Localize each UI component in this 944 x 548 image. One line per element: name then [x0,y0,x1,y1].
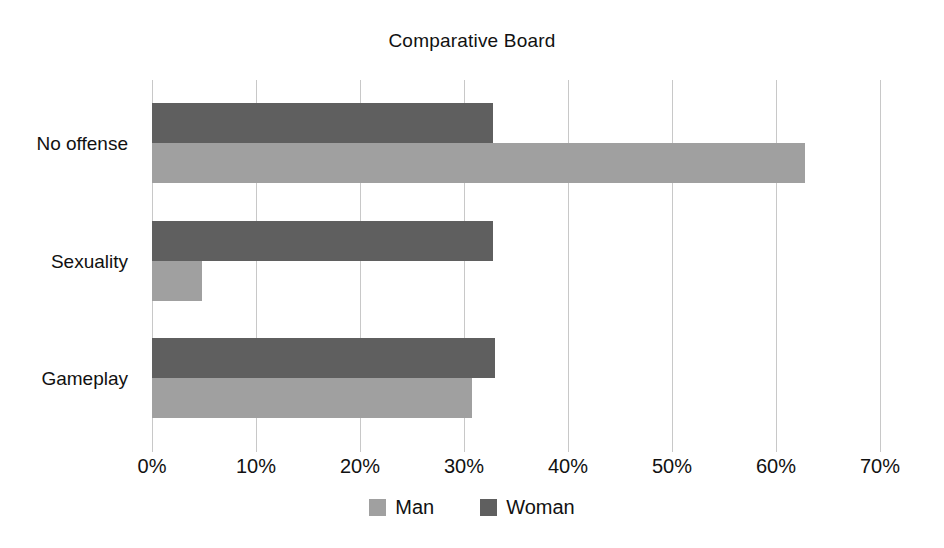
gridline-60 [776,80,777,452]
legend-label-woman: Woman [506,496,575,519]
x-tick-label-10: 10% [216,455,296,478]
legend-swatch-man-icon [369,499,386,516]
x-tick-label-70: 70% [840,455,920,478]
y-axis-label-no-offense: No offense [0,133,128,155]
gridline-50 [672,80,673,452]
x-tick-label-60: 60% [736,455,816,478]
x-tick-label-40: 40% [528,455,608,478]
y-axis-label-sexuality: Sexuality [0,251,128,273]
bar-woman-no-offense[interactable] [152,103,493,143]
x-tick-label-0: 0% [112,455,192,478]
comparative-board-chart: Comparative Board No offense Sexuality G… [0,0,944,548]
gridline-70 [880,80,881,452]
bar-man-no-offense[interactable] [152,143,805,183]
gridline-40 [568,80,569,452]
y-axis-category-labels: No offense Sexuality Gameplay [0,80,140,433]
chart-legend: Man Woman [0,496,944,519]
x-tick-label-50: 50% [632,455,712,478]
x-tick-label-30: 30% [424,455,504,478]
bar-man-sexuality[interactable] [152,261,202,301]
bar-woman-sexuality[interactable] [152,221,493,261]
bar-man-gameplay[interactable] [152,378,472,418]
legend-label-man: Man [395,496,434,519]
bar-woman-gameplay[interactable] [152,338,495,378]
legend-item-woman[interactable]: Woman [480,496,575,519]
chart-title: Comparative Board [0,30,944,52]
y-axis-label-gameplay: Gameplay [0,368,128,390]
x-axis-tick-labels: 0%10%20%30%40%50%60%70% [0,455,944,485]
legend-item-man[interactable]: Man [369,496,434,519]
legend-swatch-woman-icon [480,499,497,516]
x-tick-label-20: 20% [320,455,400,478]
plot-area [152,80,880,433]
